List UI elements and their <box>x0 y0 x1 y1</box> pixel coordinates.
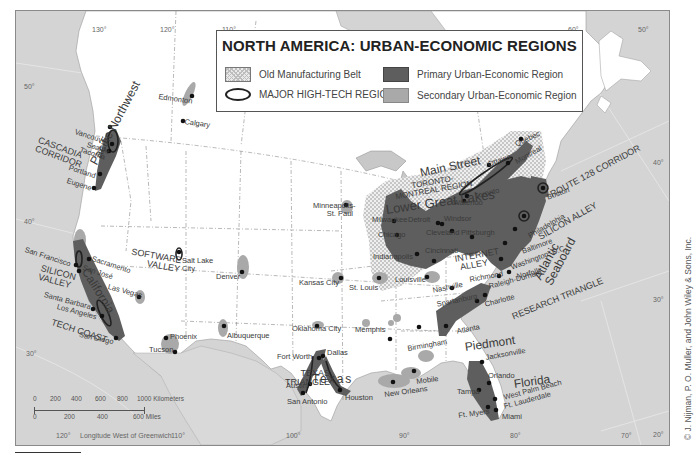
scale-km-400: 400 <box>71 396 82 403</box>
longitude-label: 100° <box>286 432 300 439</box>
city-label: Dallas <box>327 349 348 357</box>
city-label: Salt Lake City <box>182 257 216 272</box>
city-label: Cincinnati <box>425 247 458 255</box>
city-label: Albuquerque <box>227 332 270 340</box>
medium-fill-swatch-icon <box>383 88 409 103</box>
city-label: Minneapolis-St. Paul <box>313 202 353 217</box>
oval-outline-icon <box>225 88 251 101</box>
footnote-divider <box>15 452 81 453</box>
city-label: Denver <box>216 273 240 281</box>
city-label: Orlando <box>488 372 515 380</box>
crosshatch-swatch-icon <box>225 67 251 82</box>
latitude-label: 40° <box>24 218 35 225</box>
city-label: Phoenix <box>170 333 197 341</box>
city-label: Miami <box>502 413 522 421</box>
legend-item-primary-region: Primary Urban-Economic Region <box>383 67 563 82</box>
city-label: Waterloo <box>453 199 483 207</box>
city-label: Detroit <box>408 216 430 224</box>
longitude-label: 90° <box>399 432 410 439</box>
city-label: Memphis <box>355 326 385 334</box>
city-label: Houston <box>345 394 373 402</box>
legend-item-high-tech: MAJOR HIGH-TECH REGION <box>225 88 395 101</box>
city-label: Tampa <box>457 388 480 396</box>
city-label: Louisville <box>395 276 426 284</box>
latitude-label: 30° <box>26 350 37 357</box>
legend-label: Primary Urban-Economic Region <box>417 69 563 80</box>
longitude-label: 80° <box>510 432 521 439</box>
scale-km-1000: 1000 Kilometers <box>137 396 184 403</box>
longitude-label: 110° <box>171 432 185 439</box>
copyright-notice: © J. Nijman, P. O. Muller, and John Wile… <box>683 237 693 440</box>
city-label: Chicago <box>378 231 406 239</box>
scale-mi-200: 200 <box>64 414 75 421</box>
city-label: Fort Worth <box>277 353 312 361</box>
city-label: Milwaukee <box>372 216 407 224</box>
scale-km-600: 600 <box>95 396 106 403</box>
longitude-label: 70° <box>621 432 632 439</box>
map-title: NORTH AMERICA: URBAN-ECONOMIC REGIONS <box>217 37 582 54</box>
longitude-label: 120° <box>56 432 70 439</box>
latitude-label: 20° <box>653 431 664 438</box>
longitude-label: 50° <box>638 26 649 33</box>
legend-item-secondary-region: Secondary Urban-Economic Region <box>383 88 577 103</box>
city-label: Pittsburgh <box>461 229 495 237</box>
city-label: Tucson <box>149 346 173 354</box>
legend-item-manufacturing-belt: Old Manufacturing Belt <box>225 67 361 82</box>
legend-label: Secondary Urban-Economic Region <box>417 90 577 101</box>
city-label: Kansas City <box>299 279 339 287</box>
city-label: Windsor <box>444 215 472 223</box>
latitude-label: 30° <box>653 296 664 303</box>
city-label: Indianapolis <box>373 253 413 261</box>
longitude-label: 130° <box>92 26 106 33</box>
scale-mi-0: 0 <box>33 414 37 421</box>
dark-fill-swatch-icon <box>383 67 409 82</box>
scale-mi-400: 400 <box>97 414 108 421</box>
latitude-label: 50° <box>24 83 35 90</box>
city-label: Oklahoma City <box>292 325 341 333</box>
map-legend: NORTH AMERICA: URBAN-ECONOMIC REGIONS Ol… <box>216 30 583 112</box>
legend-label: Old Manufacturing Belt <box>259 69 361 80</box>
city-label: St. Louis <box>349 284 378 292</box>
city-label: Cleveland <box>426 229 459 237</box>
legend-label: MAJOR HIGH-TECH REGION <box>259 89 395 100</box>
city-label: San Antonio <box>287 398 327 406</box>
longitude-label: 120° <box>160 26 174 33</box>
scale-km-0: 0 <box>33 396 37 403</box>
scale-km-200: 200 <box>50 396 61 403</box>
city-label: Austin <box>286 382 307 390</box>
latitude-label: 40° <box>653 159 664 166</box>
scale-mi-600: 600 Miles <box>133 414 161 421</box>
scale-km-800: 800 <box>117 396 128 403</box>
longitude-caption: Longitude West of Greenwich <box>80 432 172 439</box>
